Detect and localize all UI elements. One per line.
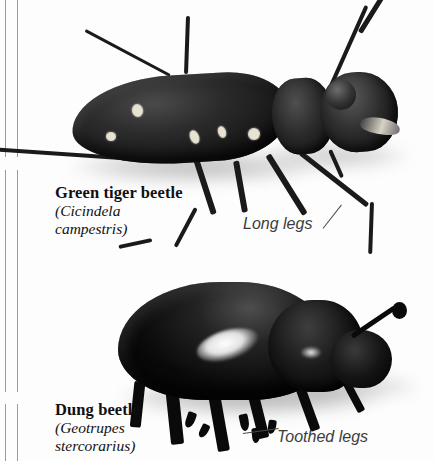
tiger-scientific-name-line2: campestris) [55,220,183,238]
field-guide-page: Green tiger beetle (Cicindela campestris… [0,0,434,461]
dung-beetle-caption: Dung beetle (Geotrupes stercorarius) [55,400,140,454]
dung-scientific-name-line2: stercorarius) [55,437,140,455]
dung-leg-tooth [267,420,277,435]
green-tiger-beetle-caption: Green tiger beetle (Cicindela campestris… [55,183,183,237]
tiger-leg [368,202,374,254]
toothed-legs-annotation: Toothed legs [277,428,368,446]
dung-leg-tooth [238,413,250,431]
long-legs-annotation: Long legs [243,215,312,233]
tiger-eye [326,80,356,110]
dung-scientific-name-line1: (Geotrupes [55,419,140,437]
dung-common-name: Dung beetle [55,400,140,419]
tiger-antenna [184,16,190,74]
tiger-antenna [85,29,171,77]
dung-antenna-club [392,302,407,319]
tiger-leg [118,238,152,249]
tiger-common-name: Green tiger beetle [55,183,183,202]
dung-leg-tooth [197,423,210,439]
dung-head [330,330,392,388]
tiger-scientific-name-line1: (Cicindela [55,202,183,220]
dung-thorax-highlight [300,346,322,359]
